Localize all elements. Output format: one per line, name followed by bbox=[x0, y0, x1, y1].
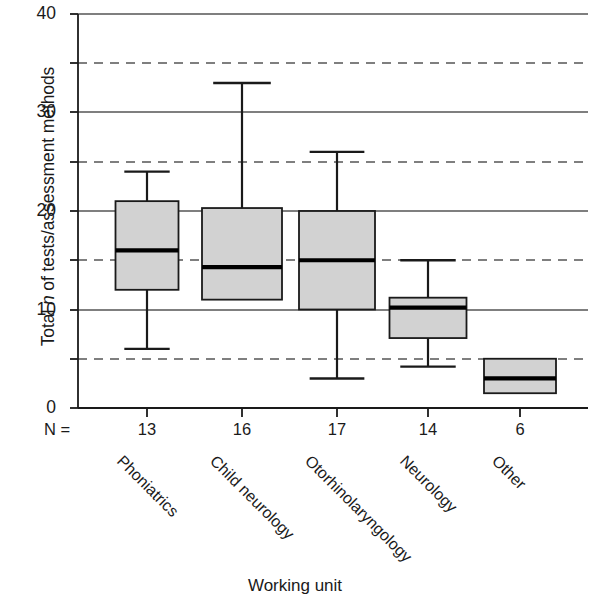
y-axis-title-suffix: of tests/assessment methods bbox=[38, 67, 58, 296]
n-value-3: 17 bbox=[307, 420, 367, 439]
plot-canvas bbox=[0, 0, 590, 613]
n-row-label: N = bbox=[44, 420, 70, 439]
box-5 bbox=[484, 359, 556, 393]
box-series bbox=[116, 83, 557, 393]
boxplot-chart: 40 30 20 10 0 Total n of tests/assessmen… bbox=[0, 0, 590, 613]
box-1 bbox=[116, 201, 179, 290]
box-group-1 bbox=[116, 172, 179, 349]
box-group-5 bbox=[484, 359, 556, 393]
n-value-4: 14 bbox=[398, 420, 458, 439]
box-group-3 bbox=[299, 152, 375, 379]
box-2 bbox=[202, 208, 282, 300]
box-group-4 bbox=[390, 260, 467, 366]
n-value-5: 6 bbox=[490, 420, 550, 439]
x-axis-title: Working unit bbox=[0, 576, 590, 596]
box-4 bbox=[390, 298, 467, 338]
n-value-1: 13 bbox=[117, 420, 177, 439]
y-axis-title-italic-n: n bbox=[38, 295, 58, 305]
box-group-2 bbox=[202, 83, 282, 300]
y-axis-title: Total n of tests/assessment methods bbox=[38, 7, 59, 407]
y-axis-title-prefix: Total bbox=[38, 305, 58, 346]
n-value-2: 16 bbox=[212, 420, 272, 439]
